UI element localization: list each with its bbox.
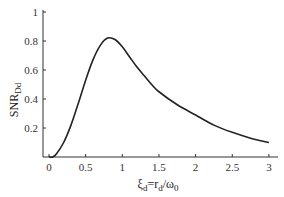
x-tick-label: 3 xyxy=(266,161,272,173)
x-tick-label: 0.5 xyxy=(79,161,93,173)
x-tick-label: 1 xyxy=(120,161,126,173)
x-tick-label: 1.5 xyxy=(152,161,166,173)
y-tick-label: 0.4 xyxy=(24,93,38,105)
x-axis: 00.511.522.53 xyxy=(43,154,278,173)
x-tick-label: 2 xyxy=(193,161,199,173)
y-tick-label: 0.2 xyxy=(24,122,38,134)
y-tick-label: 0.6 xyxy=(24,64,38,76)
y-axis: 0.20.40.60.81 xyxy=(24,6,46,157)
snr-curve xyxy=(49,38,269,158)
y-tick-label: 0.8 xyxy=(24,35,38,47)
y-axis-label: SNRDd xyxy=(7,82,23,117)
svg-text:SNRDd: SNRDd xyxy=(7,82,23,117)
x-tick-label: 0 xyxy=(46,161,52,173)
snr-chart: 0.20.40.60.81 00.511.522.53 SNRDd ξd=rd/… xyxy=(0,0,284,197)
x-axis-label: ξd=rd/ω0 xyxy=(138,177,179,193)
svg-text:ξd=rd/ω0: ξd=rd/ω0 xyxy=(138,177,179,193)
x-tick-label: 2.5 xyxy=(225,161,239,173)
y-tick-label: 1 xyxy=(33,6,39,18)
